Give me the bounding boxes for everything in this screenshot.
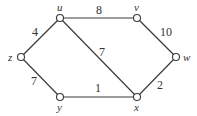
node-label-w: w xyxy=(183,51,191,63)
node-w xyxy=(173,54,180,61)
node-label-v: v xyxy=(134,1,139,13)
node-x xyxy=(134,94,141,101)
node-z xyxy=(18,54,25,61)
edge-z-y xyxy=(21,57,60,97)
edge-weight-u-v: 8 xyxy=(96,3,102,17)
edge-weight-labels: 81047712 xyxy=(31,3,172,95)
edge-weight-v-w: 10 xyxy=(160,25,172,39)
node-label-u: u xyxy=(57,1,63,13)
node-y xyxy=(57,94,64,101)
node-label-z: z xyxy=(7,51,13,63)
node-v xyxy=(134,15,141,22)
edge-weight-u-z: 4 xyxy=(32,25,38,39)
edge-u-z xyxy=(21,18,60,57)
edge-weight-u-x: 7 xyxy=(99,45,105,59)
weighted-graph-diagram: 81047712 uvwzyx xyxy=(0,0,197,116)
edge-weight-x-w: 2 xyxy=(157,78,163,92)
edge-weight-z-y: 7 xyxy=(31,74,37,88)
node-label-x: x xyxy=(133,101,139,113)
node-label-y: y xyxy=(56,101,62,113)
node-u xyxy=(57,15,64,22)
edge-weight-y-x: 1 xyxy=(95,81,101,95)
